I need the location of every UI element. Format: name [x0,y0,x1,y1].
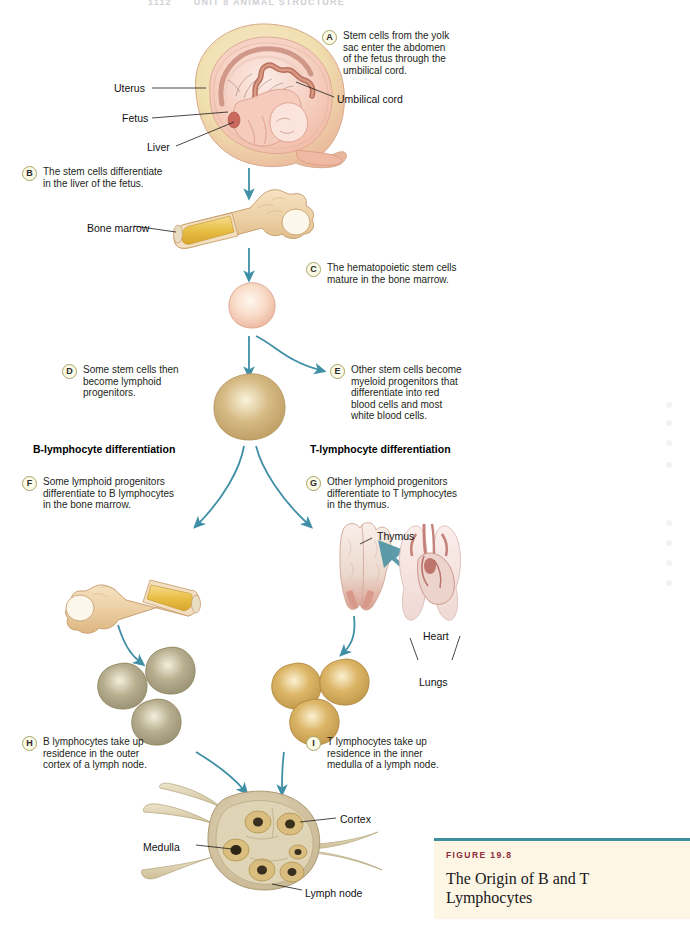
scan-speckle [666,420,672,426]
step-badge-e: E [330,364,345,379]
step-callout-b: BThe stem cells differentiate in the liv… [22,166,162,189]
scan-speckle [666,520,672,526]
running-head: 1112UNIT 8 ANIMAL STRUCTURE [148,0,345,7]
step-text-f: Some lymphoid progenitors differentiate … [43,476,174,511]
label-lymph-node: Lymph node [305,887,362,899]
step-text-g: Other lymphoid progenitors differentiate… [327,476,457,511]
step-callout-g: GOther lymphoid progenitors differentiat… [306,476,457,511]
figure-caption-box: FIGURE 19.8 The Origin of B and T Lympho… [434,841,690,919]
arrow-c-to-e [256,336,320,370]
bone-marrow-illustration [134,190,314,249]
label-heart: Heart [423,630,449,642]
scan-speckle [666,540,672,546]
step-callout-e: EOther stem cells become myeloid progeni… [330,364,462,422]
step-text-h: B lymphocytes take up residence in the o… [43,736,147,771]
figure-page: 1112UNIT 8 ANIMAL STRUCTURE [0,0,690,926]
step-text-e: Other stem cells become myeloid progenit… [351,364,462,422]
uterus-fetus-illustration [152,24,346,168]
step-callout-c: CThe hematopoietic stem cells mature in … [306,262,457,285]
running-head-number: 1112 [148,0,172,7]
step-callout-h: HB lymphocytes take up residence in the … [22,736,147,771]
label-medulla: Medulla [143,841,180,853]
step-text-i: T lymphocytes take up residence in the i… [327,736,439,771]
label-cortex: Cortex [340,813,371,825]
arrow-thymus-to-t-cells [344,616,355,652]
hematopoietic-stem-cell [229,283,275,328]
step-text-d: Some stem cells then become lymphoid pro… [83,364,179,399]
step-badge-h: H [22,736,37,751]
arrow-t-cells-to-node [282,752,284,790]
step-badge-a: A [322,30,337,45]
lymphoid-progenitor-cell [214,374,285,440]
step-badge-d: D [62,364,77,379]
branch-heading-b-lymphocyte: B-lymphocyte differentiation [33,443,175,455]
arrow-bone-to-b-cells [118,625,140,662]
label-thymus: Thymus [377,530,414,542]
step-callout-d: DSome stem cells then become lymphoid pr… [62,364,179,399]
step-text-a: Stem cells from the yolk sac enter the a… [343,30,449,76]
label-uterus: Uterus [114,82,145,94]
step-callout-f: FSome lymphoid progenitors differentiate… [22,476,174,511]
scan-speckle [666,402,672,408]
label-lungs: Lungs [419,676,448,688]
branch-heading-t-lymphocyte: T-lymphocyte differentiation [310,443,451,455]
step-badge-b: B [22,166,37,181]
step-badge-g: G [306,476,321,491]
arrow-progenitor-to-b-branch [198,446,244,524]
scan-speckle [666,462,672,468]
step-badge-f: F [22,476,37,491]
step-badge-c: C [306,262,321,277]
step-callout-a: AStem cells from the yolk sac enter the … [322,30,449,76]
step-callout-i: IT lymphocytes take up residence in the … [306,736,439,771]
arrow-progenitor-to-t-branch [256,446,308,524]
figure-number: FIGURE 19.8 [446,850,678,860]
t-lymphocyte-cluster [272,659,369,745]
figure-title: The Origin of B and T Lymphocytes [446,869,678,907]
b-lymphocyte-cluster [98,647,195,745]
step-text-c: The hematopoietic stem cells mature in t… [327,262,457,285]
lymph-node-illustration [142,783,382,890]
running-head-title: UNIT 8 ANIMAL STRUCTURE [194,0,345,7]
label-liver: Liver [147,141,170,153]
step-text-b: The stem cells differentiate in the live… [43,166,162,189]
scan-speckle [666,440,672,446]
label-bone-marrow: Bone marrow [87,222,149,234]
label-fetus: Fetus [122,112,148,124]
bone-marrow-illustration-lower [65,580,200,633]
figure-artwork [0,0,690,926]
label-umbilical-cord: Umbilical cord [337,93,403,105]
thymus-location-arrow [378,540,448,604]
scan-speckle [666,560,672,566]
scan-speckle [666,580,672,586]
step-badge-i: I [306,736,321,751]
arrow-b-cells-to-node [196,752,244,790]
